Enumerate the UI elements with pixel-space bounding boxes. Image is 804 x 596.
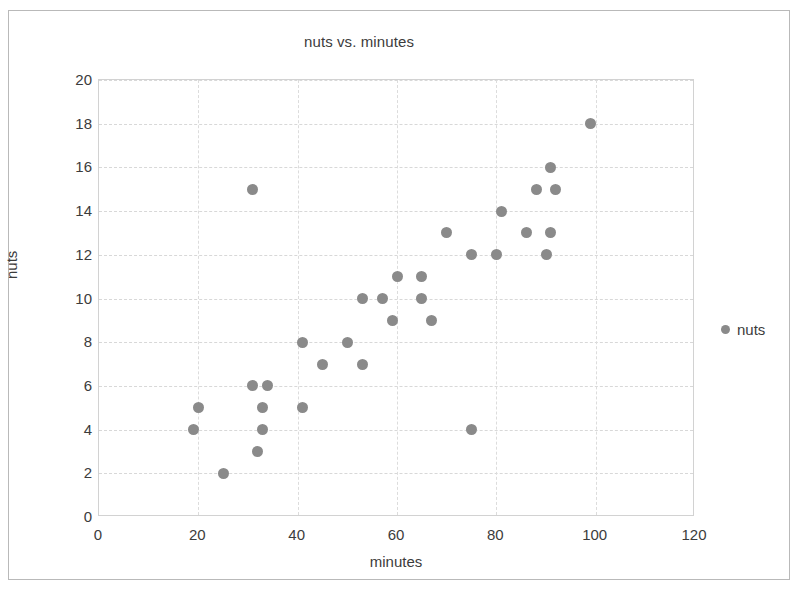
scatter-point (545, 227, 556, 238)
scatter-point (193, 402, 204, 413)
gridline-horizontal (99, 386, 693, 387)
y-tick-label: 20 (32, 71, 92, 88)
gridline-vertical (298, 80, 299, 515)
y-tick-label: 18 (32, 114, 92, 131)
scatter-point (387, 315, 398, 326)
scatter-point (541, 249, 552, 260)
scatter-point (342, 337, 353, 348)
scatter-point (317, 359, 328, 370)
scatter-point (392, 271, 403, 282)
scatter-point (521, 227, 532, 238)
gridline-horizontal (99, 342, 693, 343)
gridline-horizontal (99, 473, 693, 474)
scatter-point (247, 380, 258, 391)
y-tick-label: 14 (32, 202, 92, 219)
scatter-point (496, 206, 507, 217)
gridline-horizontal (99, 255, 693, 256)
scatter-point (357, 359, 368, 370)
scatter-point (545, 162, 556, 173)
y-tick-label: 8 (32, 333, 92, 350)
circle-marker-icon (721, 325, 730, 334)
x-tick-label: 60 (366, 526, 426, 543)
scatter-point (466, 249, 477, 260)
gridline-horizontal (99, 211, 693, 212)
gridline-vertical (596, 80, 597, 515)
y-tick-label: 2 (32, 464, 92, 481)
y-tick-label: 4 (32, 420, 92, 437)
scatter-point (262, 380, 273, 391)
scanned-page: nuts vs. minutes nuts minutes 0246810121… (0, 0, 804, 596)
scatter-point (218, 468, 229, 479)
x-tick-label: 100 (565, 526, 625, 543)
gridline-horizontal (99, 80, 693, 81)
gridline-vertical (496, 80, 497, 515)
legend: nuts (721, 321, 765, 338)
y-tick-label: 6 (32, 376, 92, 393)
scatter-point (426, 315, 437, 326)
y-tick-label: 12 (32, 245, 92, 262)
scatter-point (531, 184, 542, 195)
x-axis-title: minutes (98, 553, 694, 570)
scatter-point (416, 271, 427, 282)
scatter-point (257, 424, 268, 435)
scatter-point (357, 293, 368, 304)
scatter-point (550, 184, 561, 195)
scatter-point (416, 293, 427, 304)
x-tick-label: 20 (167, 526, 227, 543)
scatter-point (585, 118, 596, 129)
scatter-point (297, 337, 308, 348)
chart-frame: nuts vs. minutes nuts minutes 0246810121… (8, 10, 790, 580)
scatter-point (252, 446, 263, 457)
scatter-point (466, 424, 477, 435)
scatter-point (377, 293, 388, 304)
gridline-horizontal (99, 167, 693, 168)
y-tick-label: 10 (32, 289, 92, 306)
x-tick-label: 120 (664, 526, 724, 543)
gridline-horizontal (99, 124, 693, 125)
legend-item-label: nuts (737, 321, 765, 338)
x-tick-label: 40 (267, 526, 327, 543)
y-tick-label: 16 (32, 158, 92, 175)
x-tick-label: 0 (68, 526, 128, 543)
chart-title: nuts vs. minutes (9, 33, 709, 50)
scatter-point (297, 402, 308, 413)
gridline-vertical (397, 80, 398, 515)
scatter-point (247, 184, 258, 195)
scatter-point (188, 424, 199, 435)
plot-area (98, 79, 694, 516)
x-tick-label: 80 (465, 526, 525, 543)
gridline-horizontal (99, 299, 693, 300)
y-tick-label: 0 (32, 508, 92, 525)
scatter-point (491, 249, 502, 260)
y-axis-title: nuts (3, 251, 20, 279)
gridline-vertical (198, 80, 199, 515)
scatter-point (257, 402, 268, 413)
scatter-point (441, 227, 452, 238)
